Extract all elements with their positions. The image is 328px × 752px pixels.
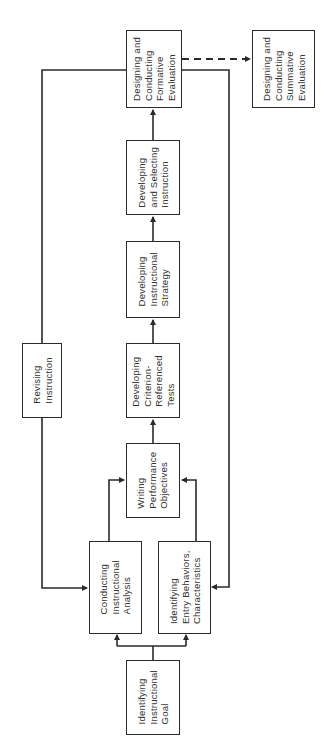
node-conducting-analysis: Conducting Instructional Analysis	[89, 541, 142, 634]
node-label: Designing and Conducting Formative Evalu…	[131, 37, 177, 101]
node-performance-objectives: Writing Performance Objectives	[126, 443, 180, 518]
edge-formative-to-entry	[182, 70, 229, 587]
node-identifying-goal: Identifying Instructional Goal	[126, 660, 180, 735]
node-label: Identifying Entry Behaviors, Characteris…	[167, 551, 202, 625]
node-instructional-strategy: Developing Instructional Strategy	[126, 241, 180, 318]
edge-formative-to-revising	[42, 70, 126, 343]
node-label: Developing and Selecting Instruction	[136, 147, 171, 208]
node-revising-instruction: Revising Instruction	[22, 343, 62, 418]
node-entry-behaviors: Identifying Entry Behaviors, Characteris…	[158, 541, 211, 634]
node-selecting-instruction: Developing and Selecting Instruction	[126, 140, 180, 215]
node-formative-evaluation: Designing and Conducting Formative Evalu…	[126, 30, 182, 108]
node-label: Developing Instructional Strategy	[136, 252, 171, 306]
node-criterion-tests: Developing Criterion- Referenced Tests	[126, 343, 180, 418]
node-label: Writing Performance Objectives	[136, 452, 171, 509]
node-label: Revising Instruction	[31, 357, 54, 403]
node-label: Identifying Instructional Goal	[136, 670, 171, 724]
node-label: Designing and Conducting Summative Evalu…	[261, 37, 307, 101]
node-label: Developing Criterion- Referenced Tests	[130, 355, 176, 407]
edge-analysis-to-objectives	[109, 480, 124, 541]
node-label: Conducting Instructional Analysis	[98, 560, 133, 614]
node-summative-evaluation: Designing and Conducting Summative Evalu…	[252, 30, 315, 108]
edge-entry-to-objectives	[182, 480, 196, 541]
edge-revising-to-analysis	[42, 418, 87, 588]
